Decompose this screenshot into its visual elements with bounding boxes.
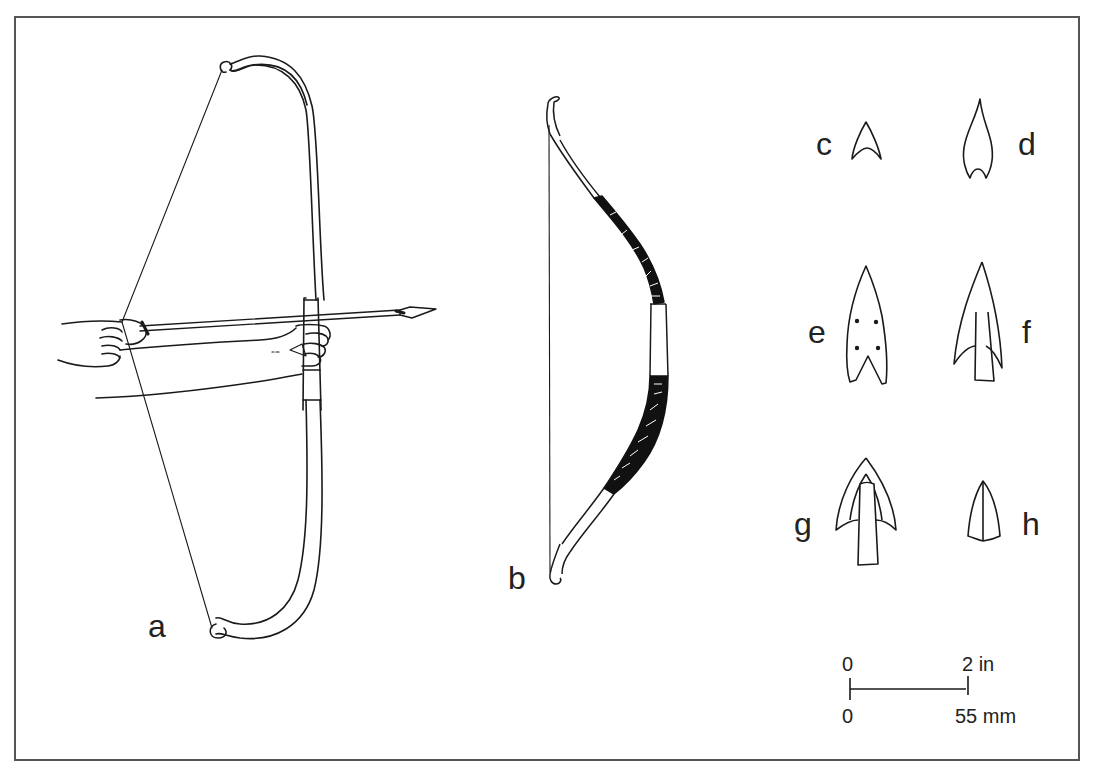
label-f: f (1022, 316, 1031, 348)
arrowhead-c-drawing (852, 122, 881, 159)
label-h: h (1022, 508, 1040, 540)
scale-bottom-end: 55 mm (955, 706, 1016, 726)
label-d: d (1018, 128, 1036, 160)
arrowhead-d-drawing (963, 99, 992, 178)
drawn-bow-drawing (58, 56, 436, 639)
arrowhead-g-drawing (836, 458, 896, 565)
label-a: a (148, 610, 166, 642)
label-g: g (794, 508, 812, 540)
scale-top-start: 0 (842, 654, 853, 674)
scale-top-end: 2 in (962, 654, 994, 674)
label-e: e (808, 316, 826, 348)
arrowhead-e-drawing (847, 266, 887, 384)
label-b: b (508, 562, 526, 594)
scale-bar (850, 676, 968, 700)
composite-bow-drawing (547, 97, 668, 584)
illustration-canvas (0, 0, 1094, 777)
label-c: c (816, 128, 832, 160)
scale-bottom-start: 0 (842, 706, 853, 726)
arrowhead-h-drawing (968, 481, 1000, 541)
arrowhead-f-drawing (954, 262, 1002, 381)
